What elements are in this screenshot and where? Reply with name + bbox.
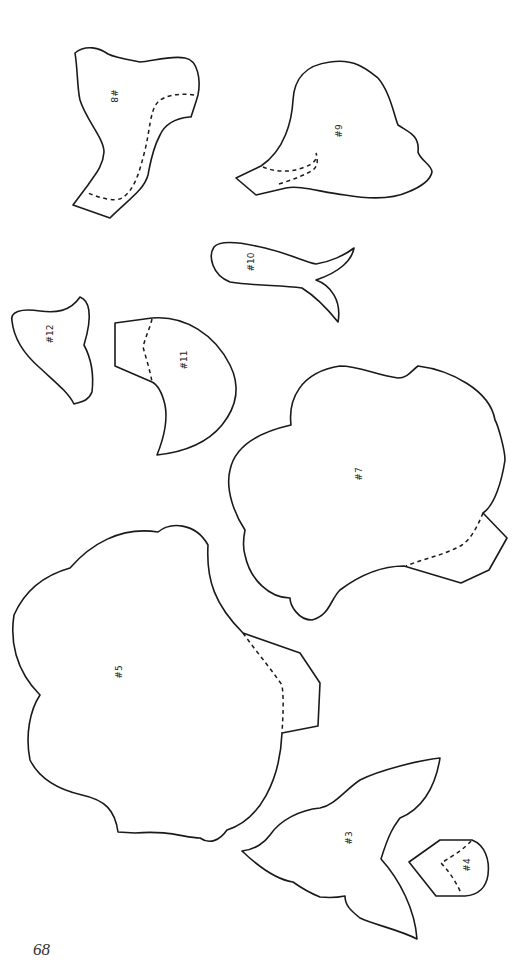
pattern-piece-11: #11 (115, 318, 236, 455)
pattern-piece-9: #9 (236, 61, 432, 198)
piece-4-outline (409, 840, 488, 896)
pattern-piece-8: #8 (73, 48, 199, 218)
page-number: 68 (33, 940, 50, 960)
piece-3-label: #3 (344, 831, 354, 844)
piece-8-label: #8 (109, 89, 119, 103)
pattern-sheet: #8 #9 #10 #12 #11 #7 #5 #3 (0, 0, 528, 976)
piece-10-outline (211, 243, 354, 322)
pattern-piece-4: #4 (409, 840, 488, 896)
piece-8-outline (73, 48, 199, 218)
pattern-piece-12: #12 (12, 297, 93, 404)
piece-9-label: #9 (334, 124, 344, 138)
pattern-piece-10: #10 (211, 243, 354, 322)
piece-12-label: #12 (45, 325, 55, 344)
piece-7-outline (229, 366, 507, 620)
piece-7-label: #7 (354, 467, 364, 480)
piece-5-label: #5 (114, 665, 124, 678)
piece-11-label: #11 (179, 351, 189, 370)
piece-10-label: #10 (246, 252, 256, 271)
piece-11-outline (115, 318, 236, 455)
pattern-piece-7: #7 (229, 366, 507, 620)
piece-4-label: #4 (462, 858, 472, 872)
piece-12-outline (12, 297, 93, 404)
